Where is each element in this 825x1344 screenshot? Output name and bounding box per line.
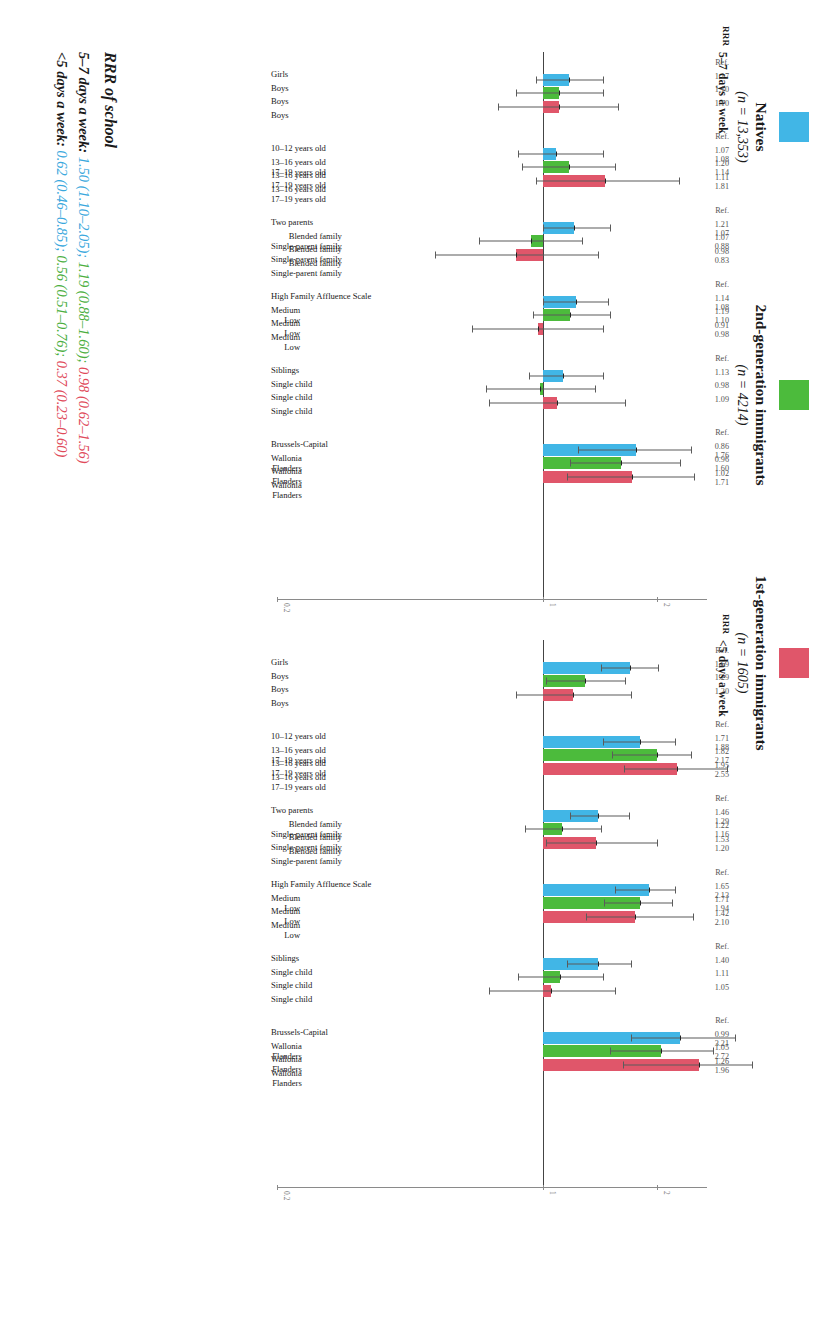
rrr-reference: Ref. xyxy=(715,1017,729,1026)
category-label: Boys xyxy=(271,672,289,682)
rrr-value: 1.09 xyxy=(715,396,729,405)
error-bar xyxy=(615,889,674,890)
error-bar-cap xyxy=(604,900,605,907)
error-bar-cap xyxy=(603,738,604,745)
y-axis-tick-label: 0.2 xyxy=(282,603,291,612)
point-estimate-marker xyxy=(681,1035,682,1040)
caption-value-natives: 1.50 (1.10–2.05); xyxy=(76,157,92,259)
caption-title: RRR of school xyxy=(101,52,119,1292)
y-axis-tick xyxy=(277,1185,278,1190)
point-estimate-marker xyxy=(640,901,641,906)
rrr-reference: Ref. xyxy=(715,429,729,438)
error-bar-cap xyxy=(601,826,602,833)
point-estimate-marker xyxy=(540,387,541,392)
error-bar-cap xyxy=(586,913,587,920)
error-bar-cap xyxy=(578,446,579,453)
error-bar xyxy=(604,903,671,904)
y-axis xyxy=(277,599,707,600)
legend-swatch-natives xyxy=(779,112,809,142)
point-estimate-marker xyxy=(630,665,631,670)
rrr-column-header: RRR xyxy=(721,614,731,634)
point-estimate-marker xyxy=(560,975,561,980)
point-estimate-marker xyxy=(635,914,636,919)
rrr-reference: Ref. xyxy=(715,943,729,952)
error-bar xyxy=(533,315,610,316)
error-bar-cap xyxy=(657,839,658,846)
error-bar-cap xyxy=(735,1034,736,1041)
y-axis-tick xyxy=(277,597,278,602)
rrr-reference: Ref. xyxy=(715,281,729,290)
rrr-reference: Ref. xyxy=(715,647,729,656)
error-bar-cap xyxy=(522,164,523,171)
rrr-value: 1.11 xyxy=(715,970,729,979)
error-bar-cap xyxy=(658,664,659,671)
point-estimate-marker xyxy=(570,313,571,318)
category-label: Single child xyxy=(271,407,312,417)
point-estimate-marker xyxy=(576,299,577,304)
error-bar-cap xyxy=(570,460,571,467)
category-label: Siblings xyxy=(271,954,299,964)
category-label: 13–16 years old17–19 years old xyxy=(271,773,326,792)
panel-5-7-days: 5–7 days a week Ref.1.171.101.10Ref.1.07… xyxy=(147,52,707,600)
caption-value-first_gen: 0.37 (0.23–0.60) xyxy=(54,361,70,458)
rrr-reference: Ref. xyxy=(715,59,729,68)
error-bar-cap xyxy=(727,765,728,772)
error-bar xyxy=(567,476,694,477)
error-bar-cap xyxy=(615,987,616,994)
rrr-reference: Ref. xyxy=(715,207,729,216)
error-bar-cap xyxy=(694,473,695,480)
error-bar-cap xyxy=(486,386,487,393)
panel-lt-5-days: <5 days a week Ref.1.691.291.20Ref.1.711… xyxy=(147,640,707,1188)
category-label: 13–16 years old17–19 years old xyxy=(271,185,326,204)
category-label: High Family Affluence Scale xyxy=(271,880,371,890)
plot-area-5-7-days: 0.212 xyxy=(277,52,707,600)
rrr-value: 0.980.83 xyxy=(715,248,729,266)
error-bar-cap xyxy=(603,150,604,157)
error-bar-cap xyxy=(610,312,611,319)
y-axis-tick xyxy=(543,1185,544,1190)
category-label: Single child xyxy=(271,393,312,403)
category-label: WalloniaFlanders xyxy=(271,1069,302,1088)
category-label: Blended familySingle-parent family xyxy=(271,259,342,278)
point-estimate-marker xyxy=(556,151,557,156)
error-bar xyxy=(536,180,679,181)
category-label: Brussels-Capital xyxy=(271,1028,328,1038)
rrr-value: 1.10 xyxy=(715,100,729,109)
point-estimate-marker xyxy=(649,887,650,892)
error-bar-cap xyxy=(435,251,436,258)
error-bar-cap xyxy=(518,150,519,157)
category-label: Boys xyxy=(271,97,289,107)
error-bar-cap xyxy=(631,1034,632,1041)
rrr-value: 1.531.20 xyxy=(715,836,729,854)
y-axis-tick-label: 2 xyxy=(662,603,671,607)
y-axis-tick xyxy=(543,597,544,602)
error-bar-cap xyxy=(543,298,544,305)
error-bar-cap xyxy=(612,752,613,759)
category-label: Boys xyxy=(271,84,289,94)
caption-value-natives: 0.62 (0.46–0.85); xyxy=(54,150,70,252)
error-bar-cap xyxy=(615,164,616,171)
category-label: Single child xyxy=(271,981,312,991)
caption-lead: 5–7 days a week: xyxy=(76,52,92,153)
point-estimate-marker xyxy=(563,373,564,378)
error-bar xyxy=(546,842,657,843)
category-label: Blended familySingle-parent family xyxy=(271,847,342,866)
point-estimate-marker xyxy=(633,474,634,479)
category-label: Boys xyxy=(271,111,289,121)
category-label: 10–12 years old xyxy=(271,732,326,742)
error-bar xyxy=(486,389,595,390)
category-label: MediumLow xyxy=(271,333,300,352)
category-label: Siblings xyxy=(271,366,299,376)
error-bar-cap xyxy=(752,1061,753,1068)
category-label: MediumLow xyxy=(271,921,300,940)
error-bar-cap xyxy=(472,325,473,332)
point-estimate-marker xyxy=(559,104,560,109)
error-bar-cap xyxy=(603,90,604,97)
error-bar-cap xyxy=(489,987,490,994)
point-estimate-marker xyxy=(621,461,622,466)
error-bar-cap xyxy=(570,812,571,819)
error-bar xyxy=(586,916,693,917)
category-label: Two parents xyxy=(271,806,313,816)
error-bar xyxy=(570,463,680,464)
rrr-value: 1.261.96 xyxy=(715,1058,729,1076)
